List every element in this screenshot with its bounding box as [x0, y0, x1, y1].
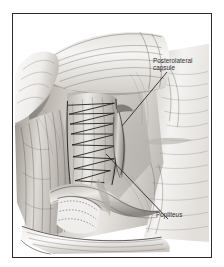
surgical-illustration-drawing [13, 14, 211, 257]
label-popliteus: Popliteus [156, 211, 210, 218]
label-posterolateral-capsule: Posterolateral capsule [153, 57, 211, 72]
figure-root: Posterolateral capsule Popliteus [0, 0, 224, 267]
illustration-frame [12, 13, 212, 258]
